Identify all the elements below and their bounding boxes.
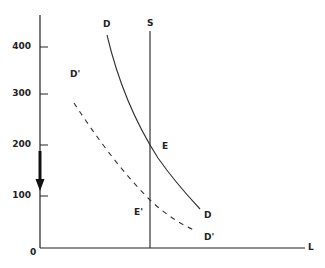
demand-shift-label-bottom: D' [204,233,214,242]
x-axis-label: L [308,243,314,252]
supply-label: S [147,19,153,28]
demand-label-bottom: D [204,211,211,220]
wage-fall-arrow-head [36,179,45,191]
demand-curve-d [107,35,200,209]
equilibrium-new-label: E' [134,208,143,217]
demand-label-top: D [103,20,110,29]
y-tick-label-100: 100 [5,191,31,200]
demand-shift-label-top: D' [70,70,80,79]
y-tick-label-200: 200 [5,140,31,149]
y-tick-label-400: 400 [5,42,31,51]
origin-label: 0 [30,248,36,257]
equilibrium-label: E [162,142,168,151]
y-tick-label-300: 300 [5,89,31,98]
labor-market-chart [0,0,325,268]
